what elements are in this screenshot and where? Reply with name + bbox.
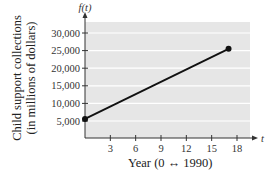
x-axis-label: Year (0 ↔ 1990): [128, 156, 213, 171]
data-point: [226, 46, 232, 52]
x-tick-label: 15: [206, 143, 217, 154]
x-tick-label: 6: [133, 143, 138, 154]
y-axis-ticks: 5,00010,00015,00020,00025,00030,000: [51, 28, 88, 127]
data-point: [82, 116, 88, 122]
y-axis-label-line-2: (in millions of dollars): [24, 15, 38, 141]
y-tick-label: 10,000: [51, 98, 80, 109]
x-tick-label: 3: [108, 143, 113, 154]
y-tick-label: 15,000: [51, 80, 80, 91]
x-axis-name: t: [261, 133, 265, 144]
x-tick-label: 9: [158, 143, 163, 154]
y-axis-name: f(t): [79, 2, 92, 14]
y-tick-label: 5,000: [56, 116, 80, 127]
y-tick-label: 30,000: [51, 28, 80, 39]
y-tick-label: 20,000: [51, 63, 80, 74]
y-tick-label: 25,000: [51, 45, 80, 56]
y-axis-label: Child support collections (in millions o…: [4, 15, 44, 141]
y-axis-label-line-1: Child support collections: [10, 15, 24, 141]
x-tick-label: 18: [232, 143, 243, 154]
x-tick-label: 12: [181, 143, 192, 154]
